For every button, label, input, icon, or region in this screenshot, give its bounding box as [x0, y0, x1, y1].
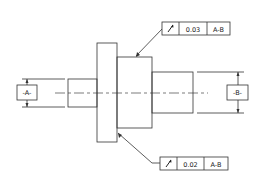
arrow-icon	[237, 72, 240, 76]
arrow-icon	[26, 79, 29, 83]
leader-arrow-icon	[118, 133, 122, 138]
circular-runout-icon	[166, 160, 172, 168]
circular-runout-icon	[168, 25, 174, 33]
fcf-bottom-datum-ref: A-B	[211, 161, 222, 169]
arrow-icon	[237, 109, 240, 113]
flange	[97, 43, 117, 142]
fcf-top-tolerance: 0.03	[186, 26, 200, 34]
fcf-bottom: 0.02 A-B	[118, 133, 228, 170]
datum-b-dimension: -B-	[197, 72, 248, 113]
datum-a-label: -A-	[23, 89, 33, 97]
middle-body	[117, 57, 152, 128]
fcf-top-datum-ref: A-B	[213, 26, 224, 34]
fcf-top: 0.03 A-B	[136, 22, 230, 57]
right-shaft	[152, 72, 193, 113]
gdt-drawing: -A- -B- 0.03 A-B 0.02	[0, 0, 262, 193]
arrow-icon	[26, 103, 29, 107]
datum-b-label: -B-	[233, 89, 243, 97]
fcf-bottom-tolerance: 0.02	[183, 161, 197, 169]
